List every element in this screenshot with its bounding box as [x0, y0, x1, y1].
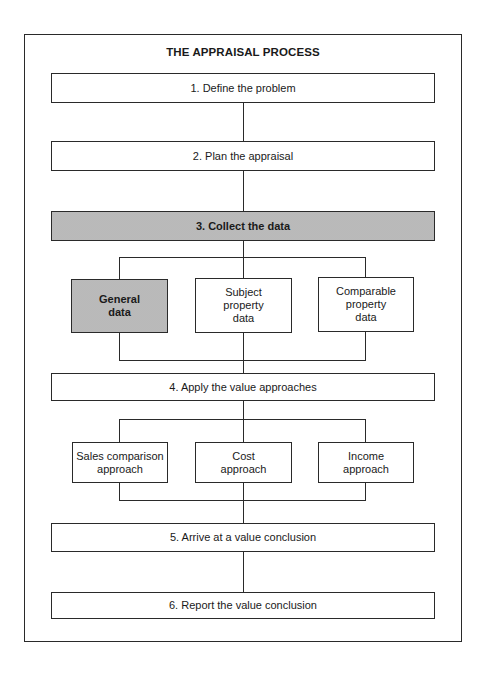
step-6-box: 6. Report the value conclusion: [51, 592, 435, 619]
connector-line: [119, 482, 120, 501]
connector-line: [365, 482, 366, 501]
sales-comparison-approach-box: Sales comparison approach: [72, 442, 168, 483]
connector-line: [243, 482, 244, 523]
connector-line: [243, 332, 244, 373]
step-4-label: 4. Apply the value approaches: [169, 381, 316, 394]
branch-bracket-top: [119, 257, 366, 258]
branch-bracket-bottom: [119, 500, 366, 501]
cost-approach-box: Cost approach: [195, 442, 292, 483]
connector-line: [243, 400, 244, 442]
sales-approach-label-2: approach: [76, 463, 163, 476]
connector-line: [119, 332, 120, 361]
step-6-label: 6. Report the value conclusion: [169, 599, 317, 612]
comparable-data-label-1: Comparable: [336, 285, 396, 298]
income-approach-box: Income approach: [318, 442, 414, 483]
step-1-box: 1. Define the problem: [51, 73, 435, 103]
branch-bracket-top: [119, 419, 366, 420]
general-data-label-2: data: [99, 306, 140, 319]
step-4-box: 4. Apply the value approaches: [51, 373, 435, 401]
step-2-label: 2. Plan the appraisal: [193, 150, 293, 163]
step-5-label: 5. Arrive at a value conclusion: [170, 531, 316, 544]
income-approach-label-2: approach: [343, 463, 389, 476]
connector-line: [365, 257, 366, 278]
step-1-label: 1. Define the problem: [190, 82, 295, 95]
subject-property-data-box: Subject property data: [195, 278, 292, 333]
subject-data-label-2: property: [223, 299, 263, 312]
cost-approach-label-1: Cost: [221, 450, 267, 463]
step-5-box: 5. Arrive at a value conclusion: [51, 523, 435, 552]
subject-data-label-3: data: [223, 312, 263, 325]
cost-approach-label-2: approach: [221, 463, 267, 476]
step-3-label: 3. Collect the data: [196, 220, 290, 233]
comparable-data-label-3: data: [336, 311, 396, 324]
connector-line: [365, 331, 366, 361]
connector-line: [243, 551, 244, 592]
connector-line: [119, 257, 120, 279]
connector-line: [119, 419, 120, 442]
sales-approach-label-1: Sales comparison: [76, 450, 163, 463]
comparable-property-data-box: Comparable property data: [318, 277, 414, 332]
general-data-label-1: General: [99, 293, 140, 306]
diagram-title: THE APPRAISAL PROCESS: [24, 46, 462, 58]
step-3-box: 3. Collect the data: [51, 211, 435, 241]
comparable-data-label-2: property: [336, 298, 396, 311]
income-approach-label-1: Income: [343, 450, 389, 463]
connector-line: [365, 419, 366, 442]
branch-bracket-bottom: [119, 360, 366, 361]
step-2-box: 2. Plan the appraisal: [51, 141, 435, 171]
subject-data-label-1: Subject: [223, 286, 263, 299]
connector-line: [243, 170, 244, 211]
general-data-box: General data: [71, 279, 168, 333]
connector-line: [243, 102, 244, 141]
connector-line: [243, 240, 244, 279]
